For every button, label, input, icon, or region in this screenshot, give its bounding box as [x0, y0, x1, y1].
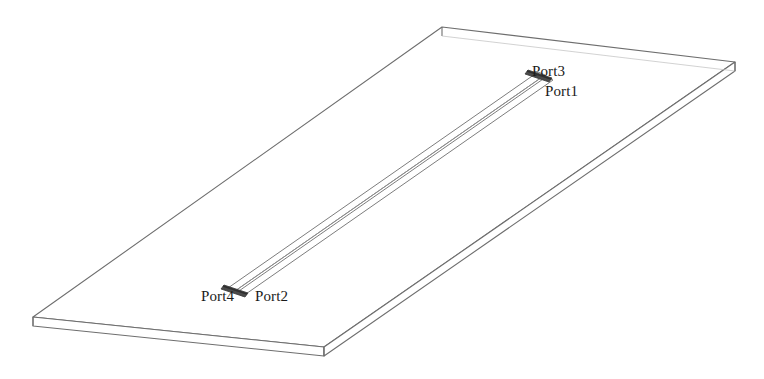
port4-label: Port4	[201, 289, 234, 304]
figure-canvas: Port3 Port1 Port4 Port2	[0, 0, 764, 379]
coupled-microstrip-3d-drawing	[0, 0, 764, 379]
port1-label: Port1	[545, 84, 578, 99]
port2-label: Port2	[255, 289, 288, 304]
port3-label: Port3	[532, 64, 565, 79]
